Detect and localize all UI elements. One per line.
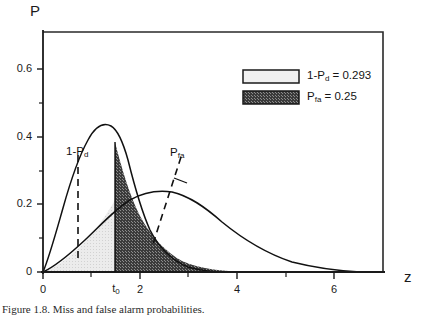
legend-miss-main: 1-P [307,69,325,81]
legend-miss-tail: = 0.293 [329,69,371,81]
threshold-tick-label: t0 [105,282,127,294]
x-tick-label-0: 0 [33,283,53,295]
miss-probability-region [43,200,115,272]
false-alarm-annotation: Pfa [170,146,184,158]
threshold-label-sub: 0 [115,287,119,296]
plot-canvas [0,0,428,317]
miss-annotation-sub: d [84,150,88,159]
x-tick-label-4: 4 [227,283,247,295]
x-tick-label-2: 2 [130,283,150,295]
figure-container: P z 0 0.2 0.4 0.6 0 2 4 6 t0 1-Pd Pfa 1-… [0,0,428,317]
false-alarm-region [115,142,246,272]
false-alarm-annotation-sub: fa [178,151,185,160]
x-axis [41,272,385,279]
y-axis [37,30,43,274]
legend-false-alarm-tail: = 0.25 [321,90,357,102]
legend-false-alarm-sub: fa [315,95,322,104]
false-alarm-annotation-main: P [170,146,178,158]
x-axis-title: z [404,268,412,285]
false-alarm-annotation-leader [152,157,187,247]
legend-swatch-miss [243,70,299,83]
figure-caption: Figure 1.8. Miss and false alarm probabi… [2,303,205,317]
y-tick-label-0.6: 0.6 [2,62,32,74]
y-axis-title: P [30,2,40,19]
x-tick-label-6: 6 [324,283,344,295]
y-tick-label-0: 0 [2,265,32,277]
legend-swatch-false-alarm [243,91,299,104]
miss-annotation-main: 1-P [66,145,84,157]
miss-probability-annotation: 1-Pd [66,145,88,157]
y-tick-label-0.4: 0.4 [2,130,32,142]
legend-false-alarm-main: P [307,90,315,102]
legend-label-false-alarm: Pfa = 0.25 [307,90,357,102]
y-tick-label-0.2: 0.2 [2,197,32,209]
legend-miss-sub: d [325,74,329,83]
legend-label-miss: 1-Pd = 0.293 [307,69,371,81]
